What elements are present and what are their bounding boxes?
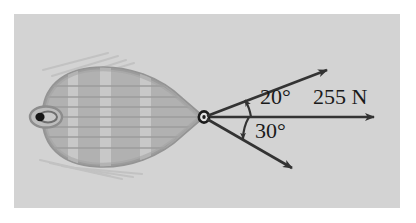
angle-label-upper: 20° <box>260 86 291 108</box>
boat-hull <box>43 60 203 174</box>
angle-arc-20 <box>245 100 251 117</box>
force-magnitude-label: 255 N <box>313 86 367 108</box>
stern-ring <box>30 107 62 128</box>
angle-arcs <box>243 100 251 139</box>
figure-container: 20° 30° 255 N <box>0 0 416 223</box>
diagram-canvas <box>0 0 416 223</box>
angle-label-lower: 30° <box>255 120 286 142</box>
angle-arc-30 <box>243 117 249 139</box>
